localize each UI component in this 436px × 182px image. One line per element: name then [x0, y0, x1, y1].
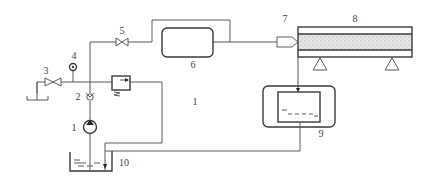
sand-conduit [298, 27, 412, 57]
pressure-line [90, 20, 277, 42]
label-conduit-8: 8 [353, 13, 358, 24]
label-valve-5: 5 [120, 25, 125, 36]
label-tank-9: 9 [319, 128, 324, 139]
return-line [105, 122, 300, 170]
valve-5-icon [116, 38, 128, 46]
support-right-icon [385, 58, 399, 70]
label-pump-1: 1 [72, 122, 77, 133]
label-nozzle-7: 7 [283, 13, 288, 24]
pressure-gauge-icon [70, 64, 77, 83]
pump-icon [84, 120, 97, 134]
reservoir-tank [70, 151, 112, 171]
collection-tank [263, 86, 335, 127]
label-check-valve-2: 2 [76, 91, 81, 102]
label-extra-1: 1 [193, 96, 198, 107]
relief-return-line [105, 82, 162, 151]
label-reservoir-10: 10 [119, 157, 129, 168]
label-valve-3: 3 [44, 65, 49, 76]
support-left-icon [313, 58, 327, 70]
valve-3-icon [45, 78, 61, 86]
pressure-vessel [162, 28, 213, 57]
supply-line [37, 82, 112, 93]
nozzle-icon [277, 37, 298, 47]
label-gauge-4: 4 [72, 50, 77, 61]
relief-valve-icon [112, 76, 130, 96]
check-valve-icon [86, 93, 94, 100]
label-vessel-6: 6 [191, 59, 196, 70]
hydraulic-diagram: 3 4 2 1 5 6 7 8 [0, 0, 436, 182]
